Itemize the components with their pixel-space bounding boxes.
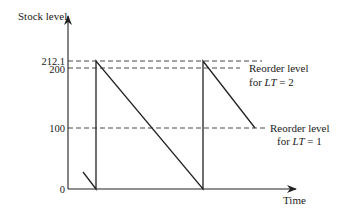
annotation-lt2-line1: Reorder level bbox=[249, 62, 309, 74]
x-axis-label: Time bbox=[283, 194, 306, 206]
inventory-chart: Stock level Time 212.1 200 100 0 Reorder… bbox=[0, 0, 341, 216]
stock-level-series bbox=[83, 61, 255, 189]
y-tick-0: 0 bbox=[60, 184, 65, 195]
y-tick-200: 200 bbox=[49, 64, 65, 75]
annotation-lt1-line2: for LT = 1 bbox=[277, 135, 322, 147]
annotation-lt1-line1: Reorder level bbox=[270, 122, 330, 134]
y-axis-label: Stock level bbox=[18, 10, 67, 22]
annotation-lt2-line2: for LT = 2 bbox=[249, 76, 294, 88]
y-tick-100: 100 bbox=[49, 123, 65, 134]
